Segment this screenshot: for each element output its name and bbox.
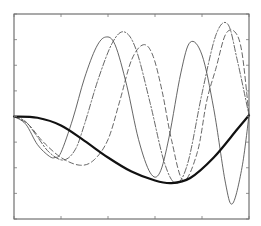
line-chart: [0, 0, 261, 226]
series-thick-solid: [14, 115, 249, 183]
series-layer: [14, 22, 249, 204]
axes-box: [14, 14, 249, 219]
ticks-layer: [14, 14, 249, 219]
